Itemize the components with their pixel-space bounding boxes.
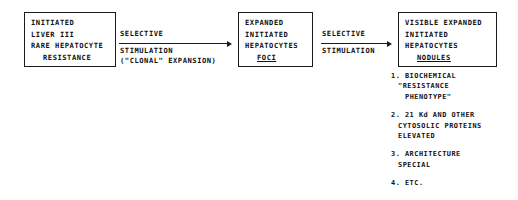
list-item-line: 4. ETC. bbox=[391, 178, 517, 188]
flow-diagram: INITIATED LIVER III RARE HEPATOCYTE RESI… bbox=[0, 0, 518, 200]
node-text-line: INITIATED bbox=[31, 17, 109, 29]
list-item-line: CYTOSOLIC PROTEINS bbox=[391, 121, 517, 131]
node-text-line-emphasis: NODULES bbox=[405, 52, 490, 64]
node-text-line: VISIBLE EXPANDED bbox=[405, 17, 490, 29]
node-text-line: RARE HEPATOCYTE bbox=[31, 40, 109, 52]
node-text-line: LIVER III bbox=[31, 29, 109, 41]
edge-label-above: SELECTIVE bbox=[120, 28, 163, 40]
node-text-line-emphasis: FOCI bbox=[245, 52, 306, 64]
expanded-foci-box: EXPANDED INITIATED HEPATOCYTES FOCI bbox=[238, 12, 313, 67]
list-item-line: "RESISTANCE bbox=[391, 81, 517, 91]
list-item: 1. BIOCHEMICAL "RESISTANCE PHENOTYPE" bbox=[391, 71, 517, 102]
list-item-line: PHENOTYPE" bbox=[391, 92, 517, 102]
list-item-line: 3. ARCHITECTURE bbox=[391, 149, 517, 159]
arrow-shaft bbox=[321, 43, 389, 44]
node-text-line: RESISTANCE bbox=[31, 52, 109, 64]
nodule-properties-list: 1. BIOCHEMICAL "RESISTANCE PHENOTYPE" 2.… bbox=[391, 71, 517, 197]
visible-nodules-box: VISIBLE EXPANDED INITIATED HEPATOCYTES N… bbox=[398, 12, 497, 67]
node-text-line: HEPATOCYTES bbox=[245, 40, 306, 52]
arrow-head-icon bbox=[387, 41, 392, 47]
list-item-line: ELEVATED bbox=[391, 131, 517, 141]
initiated-liver-box: INITIATED LIVER III RARE HEPATOCYTE RESI… bbox=[24, 12, 116, 67]
edge-label-below-secondary: ("CLONAL" EXPANSION) bbox=[120, 55, 216, 67]
list-item: 3. ARCHITECTURE SPECIAL bbox=[391, 149, 517, 170]
node-text-line: INITIATED bbox=[245, 29, 306, 41]
list-item: 4. ETC. bbox=[391, 178, 517, 188]
node-text-line: EXPANDED bbox=[245, 17, 306, 29]
list-item: 2. 21 Kd AND OTHER CYTOSOLIC PROTEINS EL… bbox=[391, 110, 517, 141]
edge-label-below: STIMULATION bbox=[322, 45, 375, 57]
node-text-line: INITIATED bbox=[405, 29, 490, 41]
list-item-line: 2. 21 Kd AND OTHER bbox=[391, 110, 517, 120]
list-item-line: 1. BIOCHEMICAL bbox=[391, 71, 517, 81]
arrow-shaft bbox=[119, 43, 229, 44]
edge-label-above: SELECTIVE bbox=[322, 28, 365, 40]
list-item-line: SPECIAL bbox=[391, 160, 517, 170]
arrow-head-icon bbox=[227, 41, 232, 47]
node-text-line: HEPATOCYTES bbox=[405, 40, 490, 52]
